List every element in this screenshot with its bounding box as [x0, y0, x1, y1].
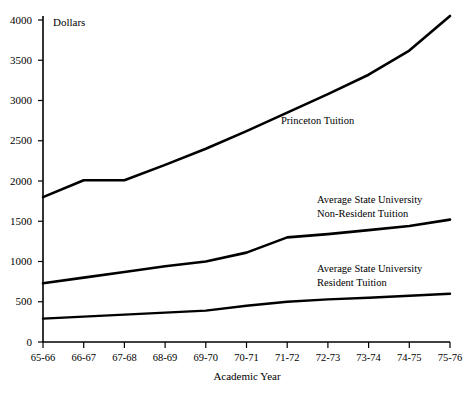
x-axis-tick-labels: 65-6666-6767-6868-6969-7070-7171-7272-73… — [31, 352, 463, 363]
series-annotation-princeton: Princeton Tuition — [281, 115, 355, 126]
y-tick-label: 2000 — [10, 175, 33, 187]
series-line-3 — [43, 294, 450, 319]
x-axis-ticks — [43, 342, 450, 348]
y-tick-label: 4000 — [10, 14, 33, 26]
x-axis-title: Academic Year — [213, 370, 281, 382]
y-tick-label: 1500 — [10, 215, 33, 227]
x-tick-label: 75-76 — [438, 352, 463, 363]
y-tick-label: 3000 — [10, 94, 33, 106]
tuition-line-chart: 05001000150020002500300035004000 65-6666… — [0, 0, 465, 396]
x-tick-label: 70-71 — [234, 352, 259, 363]
y-tick-label: 0 — [27, 336, 33, 348]
x-tick-label: 69-70 — [194, 352, 219, 363]
series-annotation-nonresident-line2: Non-Resident Tuition — [317, 208, 409, 219]
x-tick-label: 74-75 — [397, 352, 422, 363]
series-annotation-resident-line2: Resident Tuition — [317, 277, 387, 288]
series-annotation-resident-line1: Average State University — [317, 263, 423, 274]
x-tick-label: 68-69 — [153, 352, 178, 363]
series-line-1 — [43, 16, 450, 197]
x-tick-label: 66-67 — [71, 352, 96, 363]
y-tick-label: 500 — [16, 295, 33, 307]
series-annotation-nonresident-line1: Average State University — [317, 194, 423, 205]
y-tick-label: 2500 — [10, 134, 33, 146]
x-tick-label: 73-74 — [356, 352, 381, 363]
y-tick-label: 1000 — [10, 255, 33, 267]
x-tick-label: 71-72 — [275, 352, 300, 363]
x-tick-label: 72-73 — [316, 352, 341, 363]
y-tick-label: 3500 — [10, 54, 33, 66]
y-axis-unit-label: Dollars — [53, 16, 85, 28]
y-axis-tick-labels: 05001000150020002500300035004000 — [10, 14, 33, 348]
x-tick-label: 65-66 — [31, 352, 56, 363]
x-tick-label: 67-68 — [112, 352, 137, 363]
chart-canvas: 05001000150020002500300035004000 65-6666… — [0, 0, 465, 396]
